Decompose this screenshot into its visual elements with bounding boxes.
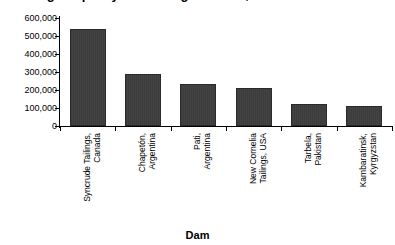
x-axis-label: Argentina [148, 133, 162, 225]
y-axis-tick-label: 600,000 [5, 13, 57, 23]
x-axis-label: Tailings, USA [259, 133, 273, 225]
x-axis-tick-mark [337, 126, 338, 131]
bar[interactable] [180, 84, 216, 126]
x-axis-tick-mark [60, 126, 61, 131]
bar[interactable] [291, 104, 327, 126]
x-axis-tick-mark [171, 126, 172, 131]
x-axis-tick-mark [115, 126, 116, 131]
x-axis-label: Kyrgyzstan [369, 133, 383, 225]
chart-title: Storage Capacity of the Largest Dams, in… [0, 0, 395, 2]
y-axis-tick-label: 0 [5, 121, 57, 131]
bar-chart: Storage Capacity of the Largest Dams, in… [0, 0, 395, 245]
x-axis-label: Argentina [203, 133, 217, 225]
bar[interactable] [346, 106, 382, 126]
x-axis-label: Canada [93, 133, 107, 225]
x-axis-tick-mark [226, 126, 227, 131]
bar[interactable] [70, 29, 106, 126]
x-axis-title: Dam [0, 229, 395, 241]
x-axis-label: Pakistan [314, 133, 328, 225]
bar[interactable] [236, 88, 272, 126]
y-axis-tick-label: 500,000 [5, 31, 57, 41]
plot-area [60, 18, 392, 126]
y-axis-tick-label: 200,000 [5, 85, 57, 95]
x-axis-tick-mark [281, 126, 282, 131]
x-axis-tick-mark [392, 126, 393, 131]
bar[interactable] [125, 74, 161, 126]
y-axis-tick-label: 100,000 [5, 103, 57, 113]
y-axis-tick-label: 400,000 [5, 49, 57, 59]
y-axis-ticks: 0100,000200,000300,000400,000500,000600,… [0, 0, 57, 245]
y-axis-tick-label: 300,000 [5, 67, 57, 77]
